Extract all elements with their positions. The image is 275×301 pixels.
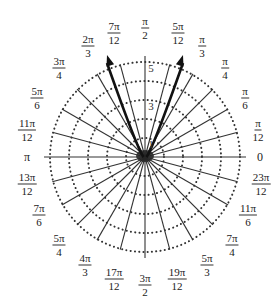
angle-denominator: 12 <box>256 185 267 197</box>
angle-label-a3: π4 <box>221 56 229 81</box>
angle-denominator: 6 <box>34 99 40 111</box>
angle-numerator: 7π <box>107 21 120 34</box>
angle-numerator: 5π <box>52 233 65 246</box>
radius-label-5: 5 <box>148 62 154 74</box>
angle-numerator: 3π <box>138 273 151 286</box>
angle-numerator: 19π <box>168 267 187 280</box>
angle-denominator: 6 <box>242 99 248 111</box>
angle-denominator: 4 <box>56 246 62 258</box>
angle-denominator: 12 <box>109 280 120 292</box>
angle-numerator: 11π <box>239 203 257 216</box>
angle-denominator: 12 <box>253 131 264 143</box>
angle-denominator: 2 <box>142 286 148 298</box>
angle-label-a20: 5π3 <box>200 253 213 278</box>
left-vector-arrowhead-icon <box>107 55 115 67</box>
angle-denominator: 4 <box>56 69 62 81</box>
angle-label-a13: 13π12 <box>18 172 37 197</box>
angle-label-a2: π6 <box>241 86 249 111</box>
angle-label-a8: 2π3 <box>81 34 94 59</box>
spoke-1 <box>145 132 238 157</box>
spoke-13 <box>52 157 145 182</box>
angle-denominator: 12 <box>22 185 33 197</box>
angle-numerator: π <box>141 16 149 29</box>
angle-label-a23: 23π12 <box>252 172 271 197</box>
angle-numerator: π <box>198 34 206 47</box>
angle-numerator: 13π <box>18 172 37 185</box>
angle-denominator: 12 <box>173 34 184 46</box>
spoke-19 <box>145 157 170 250</box>
angle-numerator: 5π <box>200 253 213 266</box>
angle-denominator: 4 <box>229 246 235 258</box>
angle-value: 0 <box>257 150 263 164</box>
angle-denominator: 12 <box>109 34 120 46</box>
origin-hub <box>136 150 154 162</box>
angle-numerator: 17π <box>105 267 124 280</box>
angle-label-a9: 3π4 <box>52 56 65 81</box>
angle-numerator: 5π <box>30 86 43 99</box>
angle-label-a15: 5π4 <box>52 233 65 258</box>
angle-label-a22: 11π6 <box>239 203 257 228</box>
angle-numerator: π <box>221 56 229 69</box>
angle-numerator: π <box>254 118 262 131</box>
angle-numerator: 3π <box>52 56 65 69</box>
origin-point <box>136 150 154 162</box>
angle-denominator: 6 <box>36 216 42 228</box>
angle-label-a21: 7π4 <box>225 233 238 258</box>
angle-label-a4: π3 <box>198 34 206 59</box>
angle-numerator: 11π <box>18 118 36 131</box>
angle-label-a19: 19π12 <box>168 267 187 292</box>
angle-label-a6: π2 <box>141 16 149 41</box>
angle-denominator: 3 <box>85 47 91 59</box>
angle-numerator: 7π <box>225 233 238 246</box>
angle-label-a5: 5π12 <box>171 21 184 46</box>
angle-numerator: 5π <box>171 21 184 34</box>
angle-denominator: 12 <box>22 131 33 143</box>
angle-label-a0: 0 <box>257 152 263 163</box>
angle-value: π <box>24 150 30 164</box>
angle-denominator: 4 <box>222 69 228 81</box>
angle-numerator: π <box>241 86 249 99</box>
angle-numerator: 2π <box>81 34 94 47</box>
radius-label-1: 1 <box>148 138 154 150</box>
angle-denominator: 2 <box>142 29 148 41</box>
angle-denominator: 3 <box>82 266 88 278</box>
right-vector-arrowhead-icon <box>176 55 184 67</box>
angle-label-a14: 7π6 <box>32 203 45 228</box>
angle-denominator: 3 <box>199 47 205 59</box>
angle-label-a18: 3π2 <box>138 273 151 298</box>
angle-label-a12: π <box>24 152 30 163</box>
angle-denominator: 3 <box>204 266 210 278</box>
angle-denominator: 6 <box>245 216 251 228</box>
angle-label-a16: 4π3 <box>78 253 91 278</box>
angle-label-a1: π12 <box>253 118 264 143</box>
angle-numerator: 7π <box>32 203 45 216</box>
angle-numerator: 4π <box>78 253 91 266</box>
angle-label-a7: 7π12 <box>107 21 120 46</box>
angle-label-a11: 11π12 <box>18 118 36 143</box>
angle-label-a17: 17π12 <box>105 267 124 292</box>
radius-label-3: 3 <box>148 100 154 112</box>
angle-label-a10: 5π6 <box>30 86 43 111</box>
angle-numerator: 23π <box>252 172 271 185</box>
left-vector <box>107 63 144 157</box>
angle-denominator: 12 <box>172 280 183 292</box>
